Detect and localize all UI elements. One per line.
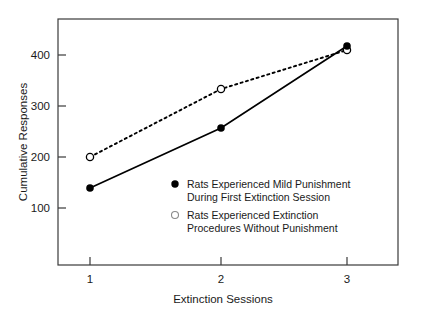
line-chart: 400 300 200 100 1 2 3 Extinction Session… [0, 0, 425, 312]
legend-entry-open-line1: Rats Experienced Extinction [187, 209, 318, 221]
series-filled-circle-line [90, 46, 347, 188]
y-tick-label-100: 100 [31, 202, 50, 214]
legend-marker-open-circle-icon [172, 212, 179, 219]
data-point-filled-s1 [86, 184, 94, 192]
data-point-filled-s2 [217, 124, 225, 132]
x-tick-label-1: 1 [87, 273, 93, 285]
x-axis-title: Extinction Sessions [173, 293, 273, 305]
legend-entry-filled: Rats Experienced Mild Punishment During … [171, 178, 350, 203]
legend-entry-filled-line1: Rats Experienced Mild Punishment [187, 178, 350, 190]
legend-entry-open: Rats Experienced Extinction Procedures W… [172, 209, 338, 234]
legend-entry-open-line2: Procedures Without Punishment [187, 222, 338, 234]
data-point-open-s2 [217, 85, 224, 92]
chart-page: 400 300 200 100 1 2 3 Extinction Session… [0, 0, 425, 312]
x-tick-label-2: 2 [218, 273, 224, 285]
y-tick-label-300: 300 [31, 100, 50, 112]
y-tick-label-200: 200 [31, 151, 50, 163]
data-point-filled-s3 [343, 42, 351, 50]
legend-entry-filled-line2: During First Extinction Session [187, 191, 330, 203]
data-point-open-s1 [86, 153, 93, 160]
series-open-circle-line [90, 50, 347, 157]
legend: Rats Experienced Mild Punishment During … [171, 178, 350, 234]
y-tick-label-400: 400 [31, 49, 50, 61]
x-tick-label-3: 3 [344, 273, 350, 285]
legend-marker-filled-circle-icon [171, 180, 178, 187]
y-axis-title: Cumulative Responses [17, 83, 29, 202]
